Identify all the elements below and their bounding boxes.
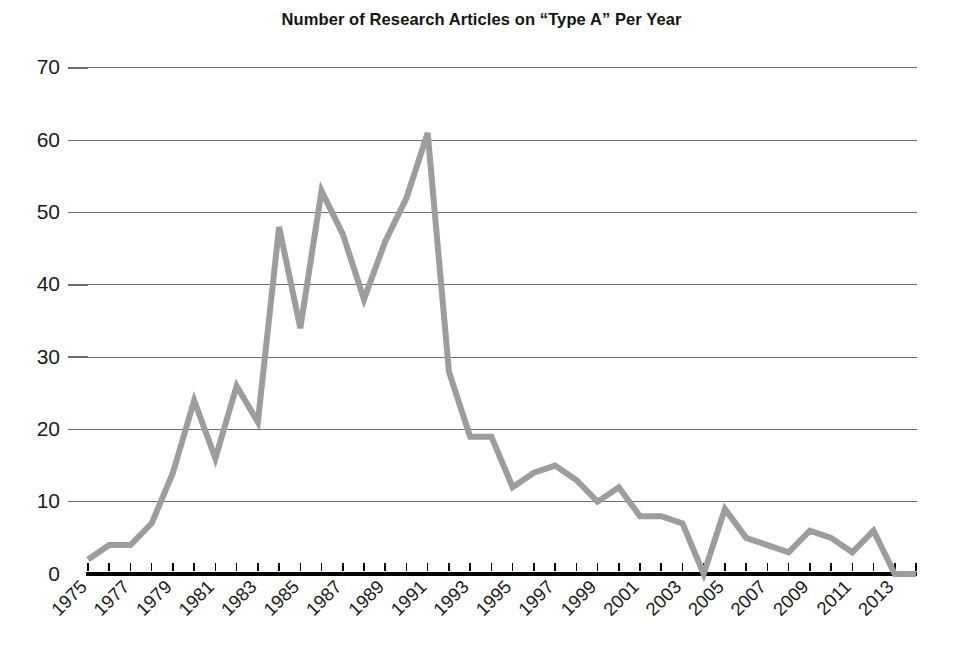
x-tick-label-2007: 2007 [726,576,770,620]
x-tick-label-1991: 1991 [387,576,431,620]
x-tick-label-1985: 1985 [259,576,303,620]
x-tick-label-2005: 2005 [684,576,728,620]
x-tick-label-1999: 1999 [556,576,600,620]
x-tick-label-1987: 1987 [302,576,346,620]
x-tick-label-1993: 1993 [429,576,473,620]
x-tick-label-1979: 1979 [132,576,176,620]
chart-container: Number of Research Articles on “Type A” … [0,0,963,650]
x-tick-marks [88,563,916,571]
x-tick-label-1981: 1981 [174,576,218,620]
y-tick-label-0: 0 [48,562,60,585]
y-tick-label-60: 60 [37,128,60,151]
x-tick-label-2011: 2011 [812,576,855,619]
x-tick-label-1995: 1995 [471,576,515,620]
x-tick-label-1977: 1977 [89,576,133,620]
gridlines [88,68,917,502]
x-tick-label-2013: 2013 [854,576,898,620]
data-series-line [88,133,916,574]
y-tick-label-70: 70 [37,55,60,78]
x-axis-tick-labels: 1975197719791981198319851987198919911993… [47,576,898,620]
line-chart-plot: 010203040506070 197519771979198119831985… [0,0,963,650]
x-tick-label-1983: 1983 [217,576,261,620]
x-tick-label-1989: 1989 [344,576,388,620]
series-line-0 [88,133,916,574]
x-tick-label-2003: 2003 [641,576,685,620]
y-tick-label-50: 50 [37,200,60,223]
x-tick-label-2009: 2009 [769,576,813,620]
y-tick-label-10: 10 [37,489,60,512]
x-tick-label-2001: 2001 [599,576,643,620]
x-tick-label-1997: 1997 [514,576,558,620]
y-tick-label-40: 40 [37,272,60,295]
y-tick-label-30: 30 [37,345,60,368]
y-axis-tick-labels: 010203040506070 [37,55,60,584]
y-tick-label-20: 20 [37,417,60,440]
y-tick-dashes [68,68,88,502]
